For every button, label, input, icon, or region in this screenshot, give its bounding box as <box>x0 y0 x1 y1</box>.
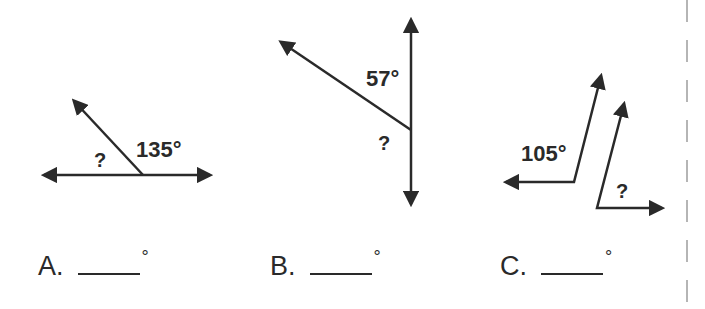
figure-c-unknown-angle-rays <box>597 104 662 208</box>
answer-a-blank[interactable] <box>78 251 140 275</box>
answer-c: C.° <box>500 251 612 282</box>
answer-a-degree-symbol: ° <box>142 247 149 267</box>
figure-a-unknown-angle: ? <box>94 149 106 171</box>
figure-c: 105° ? <box>506 76 662 208</box>
figure-c-unknown-angle: ? <box>616 180 628 202</box>
figure-a-given-angle: 135° <box>136 137 182 162</box>
figure-c-given-angle-rays <box>506 76 601 182</box>
answer-c-blank[interactable] <box>541 251 603 275</box>
figure-a: 135° ? <box>44 101 210 175</box>
answer-b: B.° <box>270 251 381 282</box>
figure-b: 57° ? <box>281 20 411 204</box>
answer-b-degree-symbol: ° <box>374 247 381 267</box>
answer-b-blank[interactable] <box>310 251 372 275</box>
figure-c-given-angle: 105° <box>521 141 567 166</box>
answer-a-label: A. <box>38 251 64 282</box>
figure-b-given-angle: 57° <box>366 66 399 91</box>
dashed-cut-line <box>686 0 688 309</box>
figure-a-ray <box>74 101 143 175</box>
answer-c-label: C. <box>500 251 527 282</box>
answer-a: A.° <box>38 251 149 282</box>
answer-b-label: B. <box>270 251 296 282</box>
answer-c-degree-symbol: ° <box>605 247 612 267</box>
figure-b-unknown-angle: ? <box>378 132 390 154</box>
